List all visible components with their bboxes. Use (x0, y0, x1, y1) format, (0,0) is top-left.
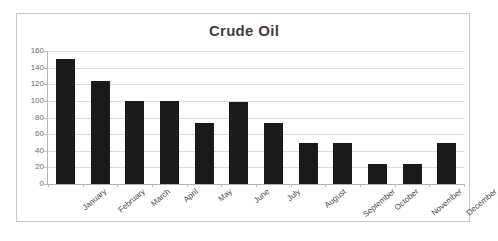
y-tick-label-160: 160 (18, 47, 44, 55)
y-tick-mark-160 (44, 51, 47, 52)
x-label-december: December (464, 187, 498, 218)
gridline-100 (48, 101, 464, 102)
y-tick-label-20: 20 (18, 163, 44, 171)
x-label-november: November (430, 187, 464, 218)
chart-frame: Crude Oil 020406080100120140160 JanuaryF… (16, 13, 470, 222)
y-tick-mark-20 (44, 167, 47, 168)
bar-december[interactable] (437, 143, 456, 184)
x-tick-mark-end (464, 184, 465, 187)
bar-august[interactable] (299, 143, 318, 184)
x-label-may: May (217, 187, 234, 204)
x-label-february: February (116, 187, 146, 214)
gridline-140 (48, 68, 464, 69)
y-tick-mark-40 (44, 151, 47, 152)
y-tick-mark-60 (44, 134, 47, 135)
y-tick-mark-100 (44, 101, 47, 102)
bar-january[interactable] (56, 59, 75, 184)
plot-area (48, 51, 464, 184)
gridline-80 (48, 118, 464, 119)
bar-november[interactable] (403, 164, 422, 184)
bar-february[interactable] (91, 81, 110, 184)
x-label-august: August (323, 187, 348, 210)
y-tick-mark-0 (44, 184, 47, 185)
bar-may[interactable] (195, 123, 214, 185)
y-tick-label-80: 80 (18, 114, 44, 122)
y-tick-mark-140 (44, 68, 47, 69)
y-tick-label-60: 60 (18, 130, 44, 138)
y-tick-label-0: 0 (18, 180, 44, 188)
x-label-june: June (252, 187, 271, 205)
y-tick-mark-120 (44, 84, 47, 85)
y-tick-label-100: 100 (18, 97, 44, 105)
bar-march[interactable] (125, 101, 144, 184)
x-label-september: September (361, 187, 397, 219)
bar-july[interactable] (264, 123, 283, 185)
bar-october[interactable] (368, 164, 387, 184)
x-label-march: March (149, 187, 172, 208)
x-label-april: April (182, 187, 200, 204)
x-axis-category-labels: JanuaryFebruaryMarchAprilMayJuneJulyAugu… (48, 187, 464, 227)
bar-april[interactable] (160, 101, 179, 184)
gridline-160 (48, 51, 464, 52)
bar-september[interactable] (333, 143, 352, 184)
x-label-july: July (286, 187, 303, 203)
y-tick-label-140: 140 (18, 64, 44, 72)
gridline-120 (48, 84, 464, 85)
x-label-january: January (81, 187, 109, 212)
y-axis-tick-labels: 020406080100120140160 (17, 51, 44, 184)
gridline-40 (48, 151, 464, 152)
x-label-october: October (393, 187, 421, 212)
bar-june[interactable] (229, 102, 248, 184)
y-tick-label-40: 40 (18, 147, 44, 155)
gridline-60 (48, 134, 464, 135)
chart-title: Crude Oil (17, 22, 471, 39)
y-tick-label-120: 120 (18, 80, 44, 88)
y-tick-mark-80 (44, 118, 47, 119)
